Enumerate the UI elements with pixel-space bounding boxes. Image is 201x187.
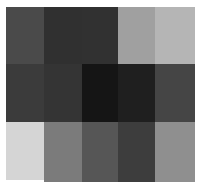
mosaic-cell-r0-c3 — [118, 7, 155, 64]
grayscale-mosaic — [0, 0, 201, 187]
mosaic-cell-r1-c4 — [155, 64, 195, 122]
mosaic-cell-r0-c1 — [44, 7, 82, 64]
mosaic-cell-r2-c0 — [6, 122, 44, 180]
mosaic-cell-r1-c2 — [82, 64, 118, 122]
mosaic-cell-r2-c4 — [155, 122, 195, 182]
mosaic-cell-r0-c2 — [82, 7, 118, 64]
mosaic-cell-r0-c0 — [6, 7, 44, 64]
mosaic-cell-r1-c1 — [44, 64, 82, 122]
mosaic-cell-r0-c4 — [155, 7, 195, 64]
mosaic-cell-r1-c3 — [118, 64, 155, 122]
mosaic-cell-r2-c2 — [82, 122, 118, 182]
mosaic-cell-r2-c3 — [118, 122, 155, 182]
mosaic-cell-r2-c1 — [44, 122, 82, 182]
mosaic-cell-r1-c0 — [6, 64, 44, 122]
